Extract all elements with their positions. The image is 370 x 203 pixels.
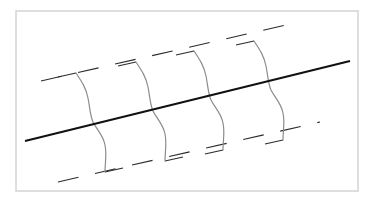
diagram-canvas	[0, 0, 370, 203]
figure-container	[0, 0, 370, 203]
